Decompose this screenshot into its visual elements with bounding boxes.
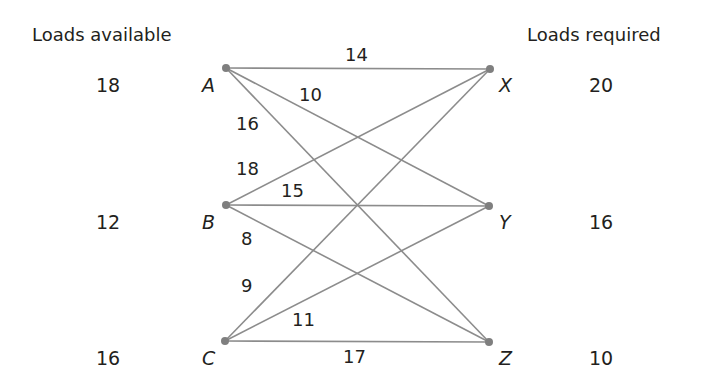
weight-c-z: 17 (343, 346, 366, 367)
edge-c-z (225, 341, 489, 342)
supply-c: 16 (96, 347, 120, 369)
weight-a-x: 14 (345, 44, 368, 65)
node-b (222, 201, 230, 209)
supply-a: 18 (96, 74, 120, 96)
label-x: X (499, 74, 512, 96)
node-x (486, 65, 494, 73)
label-b: B (202, 211, 215, 233)
node-z (485, 338, 493, 346)
label-c: C (202, 347, 215, 369)
demand-y: 16 (589, 211, 613, 233)
weight-b-x: 18 (236, 158, 259, 179)
supply-b: 12 (96, 211, 120, 233)
node-y (485, 202, 493, 210)
loads-required-header: Loads required (527, 24, 661, 45)
node-a (222, 64, 230, 72)
demand-x: 20 (589, 74, 613, 96)
weight-c-y: 11 (292, 309, 315, 330)
label-z: Z (499, 347, 512, 369)
node-c (221, 337, 229, 345)
weight-a-z: 16 (236, 113, 259, 134)
weight-c-x: 9 (241, 275, 252, 296)
demand-z: 10 (589, 347, 613, 369)
weight-b-y: 15 (281, 180, 304, 201)
weight-a-y: 10 (299, 84, 322, 105)
edge-a-x (226, 68, 490, 69)
label-a: A (202, 74, 215, 96)
weight-b-z: 8 (241, 228, 252, 249)
label-y: Y (499, 211, 511, 233)
loads-available-header: Loads available (32, 24, 172, 45)
